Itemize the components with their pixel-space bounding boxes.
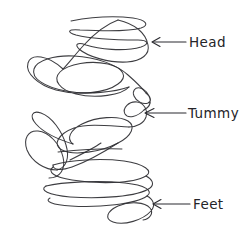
annotation-label-tummy: Tummy — [187, 105, 239, 121]
annotation-label-feet: Feet — [193, 196, 224, 212]
drawing-canvas: Head Tummy Feet — [0, 0, 252, 245]
scribble-figure-svg: Head Tummy Feet — [0, 0, 252, 245]
annotation-label-head: Head — [189, 34, 226, 50]
